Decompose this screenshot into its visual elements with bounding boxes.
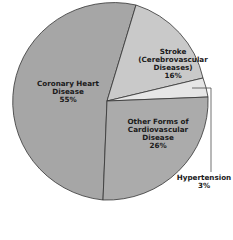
label-hypertension: Hypertension 3%	[175, 174, 233, 190]
label-hypertension-pct: 3%	[175, 182, 233, 190]
label-coronary-pct: 55%	[28, 96, 108, 104]
label-coronary: Coronary Heart Disease 55%	[28, 80, 108, 104]
label-stroke-pct: 16%	[131, 72, 215, 80]
label-other-pct: 26%	[116, 142, 200, 150]
label-stroke: Stroke (Cerebrovascular Diseases) 16%	[131, 48, 215, 80]
label-other: Other Forms of Cardiovascular Disease 26…	[116, 118, 200, 150]
